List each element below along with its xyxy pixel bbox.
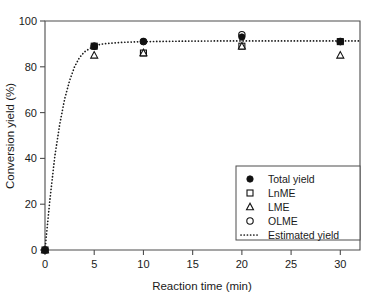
y-tick-label: 100: [19, 15, 37, 27]
legend-marker-olme: [247, 218, 253, 224]
y-axis-ticks: 020406080100: [19, 15, 45, 256]
conversion-yield-chart: 020406080100 051015202530 Reaction time …: [0, 0, 377, 300]
legend-marker-lnme: [247, 190, 253, 196]
chart-figure: 020406080100 051015202530 Reaction time …: [0, 0, 377, 300]
x-tick-label: 5: [91, 258, 97, 270]
y-tick-label: 80: [25, 61, 37, 73]
legend-label-estimated-yield: Estimated yield: [268, 229, 339, 241]
legend-label-lnme: LnME: [268, 187, 295, 199]
y-axis-title: Conversion yield (%): [4, 83, 16, 189]
legend-marker-total-yield: [247, 176, 253, 182]
x-axis-ticks: 051015202530: [42, 250, 347, 270]
legend-label-lme: LME: [268, 201, 290, 213]
data-point-lme: [91, 52, 98, 59]
x-axis-title: Reaction time (min): [152, 280, 252, 292]
x-tick-label: 20: [236, 258, 248, 270]
y-tick-label: 20: [25, 198, 37, 210]
data-point-total-yield: [140, 38, 146, 44]
y-tick-label: 60: [25, 107, 37, 119]
data-point-total-yield: [42, 247, 48, 253]
y-tick-label: 0: [31, 244, 37, 256]
data-point-total-yield: [91, 43, 97, 49]
x-tick-label: 30: [334, 258, 346, 270]
y-tick-label: 40: [25, 152, 37, 164]
data-point-total-yield: [239, 34, 245, 40]
x-tick-label: 10: [137, 258, 149, 270]
x-tick-label: 15: [187, 258, 199, 270]
legend-label-total-yield: Total yield: [268, 173, 315, 185]
chart-legend: Total yieldLnMELMEOLMEEstimated yield: [236, 166, 360, 241]
legend-label-olme: OLME: [268, 215, 298, 227]
x-tick-label: 25: [285, 258, 297, 270]
x-tick-label: 0: [42, 258, 48, 270]
data-point-total-yield: [337, 38, 343, 44]
data-point-lme: [337, 52, 344, 59]
